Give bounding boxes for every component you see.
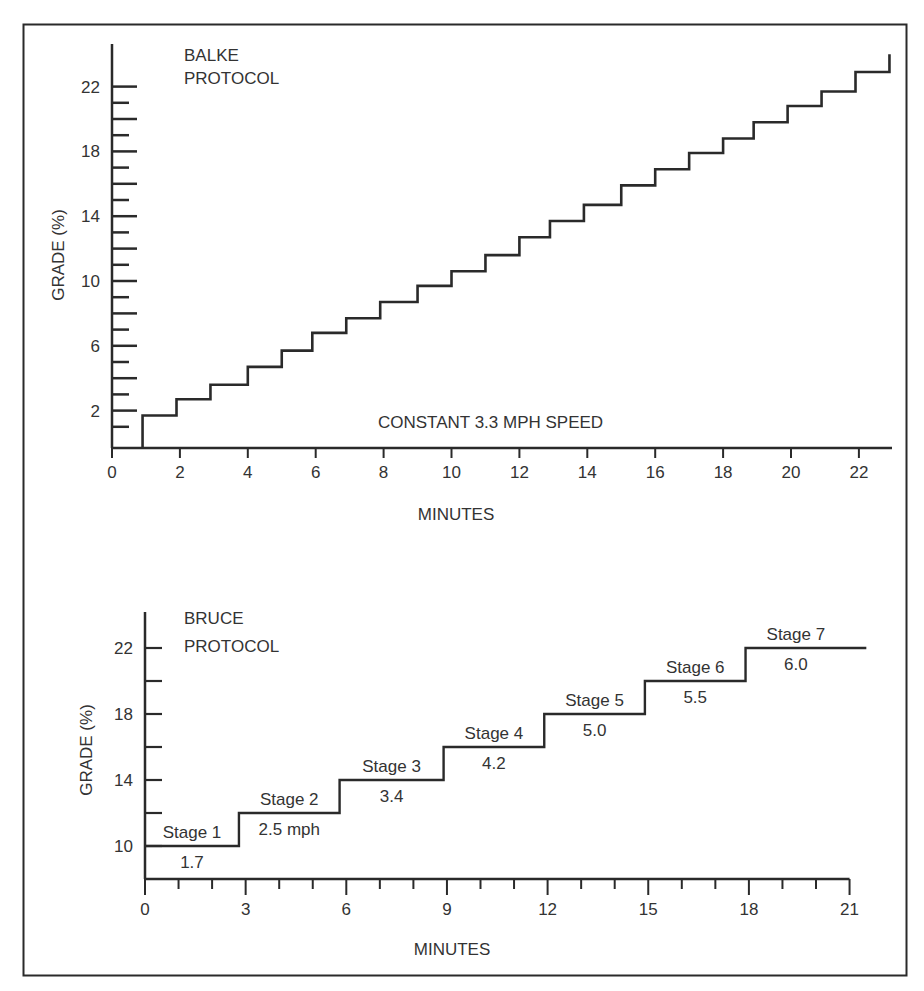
bruce-stage-speed: 5.0 <box>583 721 607 740</box>
balke-chart: BALKE PROTOCOL CONSTANT 3.3 MPH SPEED MI… <box>49 44 892 524</box>
bruce-y-axis-label: GRADE (%) <box>77 704 96 796</box>
bruce-x-tick-label: 3 <box>241 900 250 919</box>
balke-x-tick-label: 6 <box>311 463 320 482</box>
balke-y-tick-label: 22 <box>81 78 100 97</box>
bruce-stage-label: Stage 7 <box>767 625 826 644</box>
bruce-grade-step-line <box>145 648 866 846</box>
balke-y-tick-label: 18 <box>81 142 100 161</box>
balke-annotation: CONSTANT 3.3 MPH SPEED <box>378 413 603 432</box>
bruce-chart: BRUCE PROTOCOL MINUTES GRADE (%) 0369121… <box>77 609 866 959</box>
bruce-x-tick-label: 9 <box>442 900 451 919</box>
bruce-y-tick-label: 14 <box>114 771 133 790</box>
bruce-stage-label: Stage 2 <box>260 790 319 809</box>
balke-title-line-2: PROTOCOL <box>184 69 279 88</box>
figure-frame <box>24 25 907 976</box>
bruce-stage-speed: 5.5 <box>683 688 707 707</box>
bruce-stage-label: Stage 3 <box>362 757 421 776</box>
balke-x-tick-label: 20 <box>782 463 801 482</box>
balke-x-tick-label: 4 <box>243 463 252 482</box>
bruce-x-tick-label: 18 <box>739 900 758 919</box>
balke-grade-step-line <box>143 54 890 448</box>
bruce-stage-speed: 3.4 <box>380 787 404 806</box>
balke-x-tick-label: 12 <box>510 463 529 482</box>
bruce-x-tick-label: 12 <box>538 900 557 919</box>
bruce-stage-speed: 2.5 mph <box>259 820 320 839</box>
balke-y-tick-label: 2 <box>91 402 100 421</box>
bruce-x-tick-label: 15 <box>639 900 658 919</box>
balke-x-tick-label: 18 <box>714 463 733 482</box>
bruce-stage-label: Stage 6 <box>666 658 725 677</box>
bruce-stage-label: Stage 1 <box>163 823 222 842</box>
balke-x-tick-label: 2 <box>175 463 184 482</box>
bruce-stage-speed: 1.7 <box>180 853 204 872</box>
bruce-stage-speed: 4.2 <box>482 754 506 773</box>
bruce-x-tick-label: 6 <box>342 900 351 919</box>
balke-y-axis-label: GRADE (%) <box>49 209 68 301</box>
balke-x-axis-label: MINUTES <box>418 505 495 524</box>
balke-x-tick-label: 16 <box>646 463 665 482</box>
bruce-x-tick-label: 0 <box>140 900 149 919</box>
balke-y-tick-label: 14 <box>81 207 100 226</box>
bruce-title-line-2: PROTOCOL <box>184 637 279 656</box>
balke-y-tick-label: 10 <box>81 272 100 291</box>
balke-y-tick-label: 6 <box>91 337 100 356</box>
bruce-y-tick-label: 22 <box>114 639 133 658</box>
bruce-stage-label: Stage 4 <box>465 724 524 743</box>
balke-x-tick-label: 22 <box>849 463 868 482</box>
balke-x-tick-label: 10 <box>442 463 461 482</box>
bruce-y-tick-label: 10 <box>114 837 133 856</box>
bruce-title-line-1: BRUCE <box>184 609 244 628</box>
bruce-x-tick-label: 21 <box>840 900 859 919</box>
bruce-stage-label: Stage 5 <box>565 691 624 710</box>
bruce-stage-speed: 6.0 <box>784 655 808 674</box>
balke-title-line-1: BALKE <box>184 46 239 65</box>
figure: BALKE PROTOCOL CONSTANT 3.3 MPH SPEED MI… <box>0 0 924 991</box>
bruce-x-axis-label: MINUTES <box>414 940 491 959</box>
balke-x-tick-label: 8 <box>379 463 388 482</box>
balke-x-tick-label: 14 <box>578 463 597 482</box>
balke-x-tick-label: 0 <box>107 463 116 482</box>
bruce-y-tick-label: 18 <box>114 705 133 724</box>
